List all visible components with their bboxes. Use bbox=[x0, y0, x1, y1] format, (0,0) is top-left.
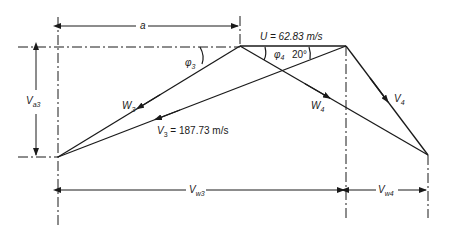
w3-arrowhead bbox=[137, 95, 160, 109]
label-phi4: φ4 bbox=[274, 49, 285, 61]
v3-arrowhead bbox=[155, 110, 180, 120]
v4-arrowhead bbox=[370, 78, 388, 102]
label-w4: W4 bbox=[311, 100, 324, 113]
label-v3: V3 = 187.73 m/s bbox=[157, 125, 228, 138]
label-u: U = 62.83 m/s bbox=[260, 31, 323, 42]
construction-lines bbox=[18, 16, 428, 225]
label-w3: W3 bbox=[122, 100, 135, 113]
label-angle-20: 20° bbox=[292, 49, 307, 60]
label-a: a bbox=[140, 20, 146, 31]
label-phi3: φ3 bbox=[185, 57, 196, 70]
angle20-arc bbox=[309, 47, 310, 59]
velocity-triangle-diagram: a U = 62.83 m/s φ3 φ4 20° Va3 W3 V3 = 18… bbox=[0, 0, 449, 232]
phi4-arc bbox=[264, 47, 266, 60]
w4-arrowhead bbox=[305, 84, 330, 99]
label-v4: V4 bbox=[394, 93, 405, 106]
phi3-arc bbox=[200, 47, 203, 64]
